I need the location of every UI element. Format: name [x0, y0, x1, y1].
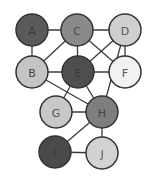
node-g: G [40, 96, 72, 128]
nodes-layer: ACDBEFGHIJ [16, 14, 141, 169]
node-label: B [28, 67, 36, 80]
node-label: A [28, 25, 36, 38]
node-e: E [62, 56, 94, 88]
node-label: C [73, 25, 81, 38]
graph-diagram: ACDBEFGHIJ [0, 0, 154, 183]
node-i: I [39, 136, 71, 168]
node-d: D [109, 14, 141, 46]
node-label: E [75, 67, 82, 80]
node-label: F [122, 67, 128, 80]
node-c: C [61, 14, 93, 46]
node-f: F [109, 56, 141, 88]
node-label: I [53, 147, 56, 160]
edges-layer [32, 30, 125, 153]
node-label: G [52, 107, 61, 120]
node-j: J [86, 137, 118, 169]
node-label: J [99, 148, 103, 161]
node-label: H [98, 107, 106, 120]
node-h: H [86, 96, 118, 128]
node-label: D [121, 25, 129, 38]
node-a: A [16, 14, 48, 46]
node-b: B [16, 56, 48, 88]
